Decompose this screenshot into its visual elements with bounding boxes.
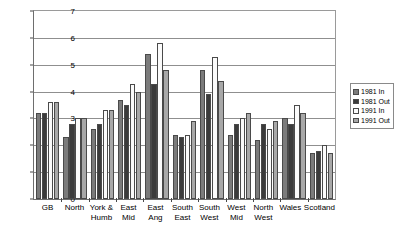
bar [179, 137, 184, 199]
bar-group-inner [145, 11, 169, 199]
bar [234, 124, 239, 199]
bar-group [171, 11, 198, 199]
bar [42, 113, 47, 199]
x-tick-label: Scotland [304, 203, 335, 222]
bar-group [198, 11, 225, 199]
x-tick-label: GB [34, 203, 61, 222]
x-tick-mark [253, 198, 254, 202]
y-tick-mark [30, 172, 33, 173]
bar-group-inner [309, 11, 333, 199]
bar [206, 94, 211, 199]
bar-group [143, 11, 170, 199]
bar [81, 118, 86, 199]
y-tick-mark [30, 118, 33, 119]
bar [282, 118, 287, 199]
bar [185, 135, 190, 199]
bar [69, 124, 74, 199]
bar [103, 110, 108, 199]
x-tick-mark [308, 198, 309, 202]
x-tick-label: West Mid [223, 203, 250, 222]
bar-group [61, 11, 88, 199]
bar [75, 118, 80, 199]
legend: 1981 In1981 Out1991 In1991 Out [350, 83, 394, 129]
legend-label: 1981 In [361, 88, 384, 95]
bar-group-inner [118, 11, 142, 199]
bar [273, 121, 278, 199]
bar-group [280, 11, 307, 199]
bar-group-inner [282, 11, 306, 199]
bar [136, 92, 141, 199]
bar [91, 129, 96, 199]
legend-item[interactable]: 1991 Out [353, 116, 390, 126]
x-axis-labels: GBNorthYork & HumbEast MidEast AngSouth … [34, 203, 335, 222]
y-tick-mark [30, 11, 33, 12]
x-tick-mark [89, 198, 90, 202]
bar [255, 140, 260, 199]
y-tick-mark [30, 64, 33, 65]
x-tick-label: South West [196, 203, 223, 222]
bar [246, 113, 251, 199]
legend-item[interactable]: 1981 Out [353, 97, 390, 107]
bar-group [34, 11, 61, 199]
legend-swatch-icon [353, 118, 359, 124]
bar [310, 153, 315, 199]
bar [130, 84, 135, 199]
bar-group-inner [227, 11, 251, 199]
bar-group-inner [172, 11, 196, 199]
bar-series-layer [34, 11, 335, 199]
y-tick-mark [30, 199, 33, 200]
y-tick-mark [30, 37, 33, 38]
legend-item[interactable]: 1981 In [353, 87, 390, 97]
bar [54, 102, 59, 199]
legend-item[interactable]: 1991 In [353, 106, 390, 116]
bar-chart: Per cent 01234567 GBNorthYork & HumbEast… [0, 0, 413, 240]
bar [118, 100, 123, 199]
x-tick-mark [143, 198, 144, 202]
legend-label: 1981 Out [361, 98, 390, 105]
bar [157, 43, 162, 199]
bar-group-inner [36, 11, 60, 199]
x-tick-label: York & Humb [88, 203, 115, 222]
bar-group-inner [200, 11, 224, 199]
bar [97, 124, 102, 199]
x-tick-label: North [61, 203, 88, 222]
x-tick-label: East Mid [115, 203, 142, 222]
bar [48, 102, 53, 199]
bar [228, 135, 233, 199]
bar [124, 105, 129, 199]
bar [163, 70, 168, 199]
bar-group-inner [255, 11, 279, 199]
bar-group-inner [63, 11, 87, 199]
bar-group [226, 11, 253, 199]
bar [322, 145, 327, 199]
bar-group [308, 11, 335, 199]
bar [267, 129, 272, 199]
x-tick-mark [61, 198, 62, 202]
bar [288, 124, 293, 199]
bar-group [116, 11, 143, 199]
x-tick-label: Wales [277, 203, 304, 222]
y-tick-mark [30, 91, 33, 92]
bar [316, 151, 321, 199]
x-tick-mark [171, 198, 172, 202]
bar [300, 113, 305, 199]
x-tick-mark [280, 198, 281, 202]
bar [240, 118, 245, 199]
legend-label: 1991 In [361, 107, 384, 114]
bar [191, 121, 196, 199]
bar [261, 124, 266, 199]
x-tick-label: South East [169, 203, 196, 222]
bar [63, 137, 68, 199]
bar [36, 113, 41, 199]
bar-group-inner [90, 11, 114, 199]
legend-swatch-icon [353, 108, 359, 114]
x-tick-label: North West [250, 203, 277, 222]
bar-group [253, 11, 280, 199]
bar [218, 81, 223, 199]
bar [173, 135, 178, 199]
y-tick-mark [30, 145, 33, 146]
x-tick-mark [198, 198, 199, 202]
x-tick-mark [116, 198, 117, 202]
x-tick-label: East Ang [142, 203, 169, 222]
bar [328, 153, 333, 199]
